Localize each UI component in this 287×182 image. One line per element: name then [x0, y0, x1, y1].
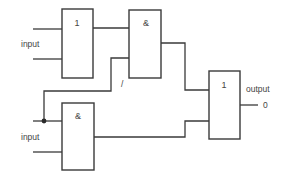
gate-and-bottom: &	[62, 103, 94, 170]
logic-circuit-diagram: 1 & & 1 input input output 0 /	[0, 0, 287, 182]
gate-and-top-symbol: &	[143, 18, 149, 28]
label-input-bottom: input	[21, 132, 40, 142]
junction-dot	[42, 119, 47, 124]
gate-and-bottom-symbol: &	[75, 111, 81, 121]
wire-and-top-to-or	[161, 43, 209, 90]
gate-or-output-symbol: 1	[221, 80, 226, 90]
label-output: output	[246, 84, 270, 94]
label-feedback-mark: /	[121, 79, 124, 89]
gate-or-output: 1	[209, 71, 240, 139]
wire-and-bottom-to-or	[94, 121, 209, 137]
gate-or-top-symbol: 1	[74, 18, 79, 28]
gate-or-top: 1	[62, 9, 93, 78]
label-input-top: input	[21, 39, 40, 49]
gate-and-top: &	[129, 10, 161, 78]
label-output-value: 0	[263, 100, 268, 110]
